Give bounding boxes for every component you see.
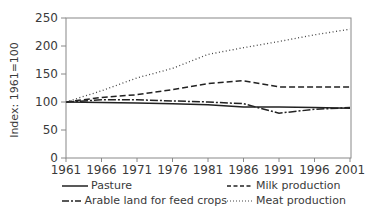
plot-frame bbox=[66, 18, 351, 158]
y-axis-title: Index: 1961=100 bbox=[8, 42, 21, 138]
dashdot-line-icon bbox=[62, 197, 81, 205]
legend-item-milk: Milk production bbox=[227, 179, 367, 192]
legend-label: Pasture bbox=[91, 179, 132, 192]
y-tick-label: 100 bbox=[35, 95, 58, 109]
legend-item-meat: Meat production bbox=[227, 194, 367, 207]
y-axis: 050100150200250 bbox=[35, 11, 66, 165]
x-tick-label: 1986 bbox=[228, 163, 259, 177]
legend-item-arable: Arable land for feed crops bbox=[62, 194, 227, 207]
x-tick-label: 1966 bbox=[86, 163, 117, 177]
x-tick-label: 1961 bbox=[51, 163, 82, 177]
dashed-line-icon bbox=[227, 182, 253, 190]
x-axis: 196119661971197619811986199119962001 bbox=[51, 158, 366, 177]
y-tick-label: 250 bbox=[35, 11, 58, 25]
legend: Pasture Milk production Arable land for … bbox=[62, 179, 362, 207]
x-tick-label: 1991 bbox=[264, 163, 295, 177]
y-tick-label: 150 bbox=[35, 67, 58, 81]
legend-label: Milk production bbox=[256, 179, 341, 192]
x-tick-label: 2001 bbox=[335, 163, 366, 177]
dotted-line-icon bbox=[227, 197, 253, 205]
y-tick-label: 200 bbox=[35, 39, 58, 53]
x-tick-label: 1976 bbox=[157, 163, 188, 177]
x-tick-label: 1996 bbox=[299, 163, 330, 177]
legend-label: Meat production bbox=[256, 194, 346, 207]
series-milk-production bbox=[66, 81, 350, 102]
series-arable-land-for-feed-crops bbox=[66, 100, 350, 113]
series-lines bbox=[66, 29, 350, 113]
y-tick-label: 50 bbox=[43, 123, 58, 137]
solid-line-icon bbox=[62, 182, 88, 190]
x-tick-label: 1981 bbox=[193, 163, 224, 177]
series-meat-production bbox=[66, 29, 350, 102]
legend-label: Arable land for feed crops bbox=[84, 194, 227, 207]
series-pasture bbox=[66, 102, 350, 108]
x-tick-label: 1971 bbox=[122, 163, 153, 177]
legend-item-pasture: Pasture bbox=[62, 179, 227, 192]
